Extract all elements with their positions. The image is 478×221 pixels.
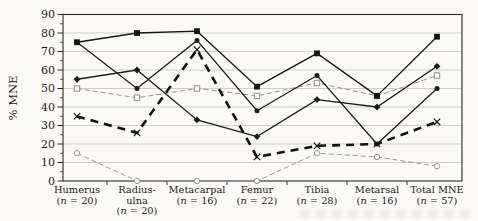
y-tick-label: 50 [41, 82, 55, 95]
data-point-filled-circle-solid [255, 108, 260, 113]
data-point-filled-diamond-solid [254, 133, 261, 140]
data-point-filled-diamond-solid [74, 76, 81, 83]
x-category-label: Metacarpal [169, 184, 226, 195]
scan-bleed-artifact [300, 209, 470, 219]
x-category-sublabel: (n = 22) [237, 195, 278, 206]
data-point-filled-square-solid [314, 50, 320, 56]
y-axis-title: % MNE [6, 76, 20, 121]
data-point-filled-circle-solid [435, 86, 440, 91]
data-point-filled-square-solid [374, 93, 380, 99]
y-tick-label: 70 [41, 45, 55, 58]
x-category-sublabel: (n = 16) [357, 195, 398, 206]
data-point-filled-circle-solid [135, 86, 140, 91]
data-point-open-circle-dashed [314, 151, 319, 156]
y-tick-label: 90 [41, 8, 55, 21]
data-point-open-square-dashed [434, 73, 439, 78]
x-category-sublabel: (n = 16) [177, 195, 218, 206]
data-point-filled-square-solid [194, 28, 200, 34]
data-point-open-square-dashed [254, 93, 259, 98]
x-category-label: Total MNE [410, 184, 463, 195]
y-tick-label: 60 [41, 64, 55, 77]
data-point-open-square-dashed [194, 86, 199, 91]
x-category-sublabel: (n = 20) [117, 205, 158, 216]
data-point-open-square-dashed [314, 80, 319, 85]
data-point-filled-square-solid [254, 84, 260, 90]
y-tick-label: 80 [41, 27, 55, 40]
x-category-label: Tibia [305, 184, 330, 195]
line-chart: 0102030405060708090% MNEHumerus(n = 20)R… [0, 0, 478, 221]
x-category-sublabel: (n = 20) [57, 195, 98, 206]
data-point-open-square-dashed [134, 95, 139, 100]
data-point-open-circle-dashed [194, 178, 199, 183]
data-point-open-circle-dashed [74, 151, 79, 156]
data-point-open-circle-dashed [134, 178, 139, 183]
data-point-open-square-dashed [74, 86, 79, 91]
x-category-label: Femur [241, 184, 274, 195]
data-point-filled-square-solid [434, 34, 440, 40]
data-point-open-circle-dashed [374, 154, 379, 159]
data-point-filled-square-solid [74, 39, 80, 45]
series-line-filled-circle-solid [77, 40, 437, 144]
x-category-label: ulna [126, 195, 148, 206]
chart-figure: 0102030405060708090% MNEHumerus(n = 20)R… [0, 0, 478, 221]
x-category-sublabel: (n = 57) [417, 195, 458, 206]
data-point-filled-square-solid [134, 30, 140, 36]
data-point-open-circle-dashed [434, 164, 439, 169]
y-tick-label: 30 [41, 119, 55, 132]
series-line-filled-diamond-solid [77, 66, 437, 136]
data-point-filled-diamond-solid [314, 96, 321, 103]
data-point-filled-circle-solid [315, 73, 320, 78]
data-point-open-circle-dashed [254, 178, 259, 183]
y-tick-label: 10 [41, 156, 55, 169]
x-category-label: Radius- [118, 184, 156, 195]
x-category-label: Metarsal [355, 184, 399, 195]
y-tick-label: 20 [41, 138, 55, 151]
plot-frame [63, 15, 462, 182]
x-category-label: Humerus [54, 184, 100, 195]
x-category-sublabel: (n = 28) [297, 195, 338, 206]
y-tick-label: 40 [41, 101, 55, 114]
data-point-filled-circle-solid [195, 38, 200, 43]
